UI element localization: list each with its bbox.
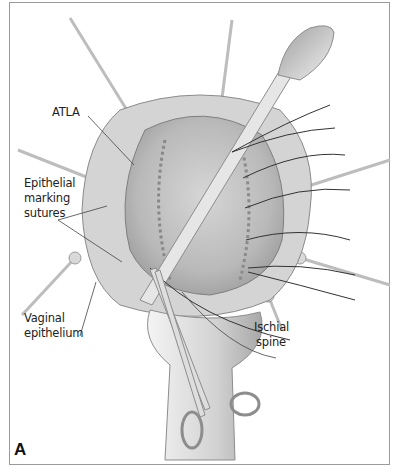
- surgical-illustration: [0, 0, 399, 472]
- retractor-spoon: [278, 26, 334, 80]
- label-epithelial-1: Epithelial: [24, 176, 75, 191]
- label-epithelial-3: sutures: [24, 206, 65, 221]
- panel-letter: A: [14, 440, 26, 460]
- label-epithelial-2: marking: [24, 191, 70, 206]
- label-ischial-2: spine: [256, 335, 286, 350]
- label-vaginal-2: epithelium: [24, 326, 83, 341]
- label-ischial-1: Ischial: [254, 320, 289, 335]
- speculum: [148, 310, 263, 460]
- label-vaginal-1: Vaginal: [24, 311, 65, 326]
- label-atla: ATLA: [52, 105, 80, 120]
